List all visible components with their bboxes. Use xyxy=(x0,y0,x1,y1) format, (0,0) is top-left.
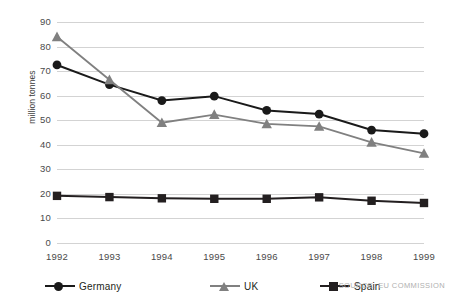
data-point-marker xyxy=(53,61,62,70)
legend-swatch-circle-icon xyxy=(45,280,75,292)
y-axis-tick-label: 90 xyxy=(25,16,51,27)
chart-container: million tonnes 0102030405060708090 19921… xyxy=(0,0,451,307)
data-point-marker xyxy=(263,195,271,203)
x-axis-tick-label: 1995 xyxy=(188,251,240,262)
x-axis-tick-label: 1996 xyxy=(241,251,293,262)
y-axis-tick-label: 10 xyxy=(25,212,51,223)
series-line xyxy=(57,196,424,203)
legend-swatch-triangle-icon xyxy=(210,280,240,292)
y-axis-tick-label: 20 xyxy=(25,188,51,199)
gridline xyxy=(57,145,424,146)
data-point-marker xyxy=(157,117,167,127)
legend-label: Germany xyxy=(79,281,122,292)
data-point-marker xyxy=(104,75,114,85)
data-point-marker xyxy=(420,199,428,207)
data-point-marker xyxy=(262,106,271,115)
y-axis-tick-label: 50 xyxy=(25,114,51,125)
gridline xyxy=(57,71,424,72)
data-point-marker xyxy=(53,192,61,200)
gridline xyxy=(57,22,424,23)
gridline xyxy=(57,194,424,195)
legend-label: UK xyxy=(244,281,258,292)
x-axis-tick-label: 1994 xyxy=(136,251,188,262)
data-point-marker xyxy=(367,197,375,205)
series-line xyxy=(57,65,424,134)
gridline xyxy=(57,243,424,244)
y-axis-tick-label: 30 xyxy=(25,163,51,174)
data-point-marker xyxy=(209,109,219,119)
y-axis-tick-label: 60 xyxy=(25,90,51,101)
data-point-marker xyxy=(157,96,166,105)
y-axis-tick-label: 80 xyxy=(25,41,51,52)
data-point-marker xyxy=(210,195,218,203)
gridline xyxy=(57,218,424,219)
data-point-marker xyxy=(158,194,166,202)
x-axis-tick-label: 1992 xyxy=(31,251,83,262)
gridline xyxy=(57,47,424,48)
series-uk xyxy=(52,32,429,158)
y-axis-tick-label: 0 xyxy=(25,237,51,248)
data-point-marker xyxy=(315,110,324,119)
x-axis-tick-label: 1993 xyxy=(83,251,135,262)
gridline xyxy=(57,120,424,121)
legend-item-uk[interactable]: UK xyxy=(210,278,258,294)
series-germany xyxy=(53,61,429,139)
data-point-marker xyxy=(314,121,324,131)
data-point-marker xyxy=(52,32,62,42)
y-axis-tick-label: 70 xyxy=(25,65,51,76)
data-point-marker xyxy=(419,148,429,158)
x-axis-tick-label: 1999 xyxy=(398,251,450,262)
x-axis-tick-label: 1998 xyxy=(346,251,398,262)
data-point-marker xyxy=(367,126,376,135)
x-axis-tick-label: 1997 xyxy=(293,251,345,262)
data-point-marker xyxy=(105,80,114,89)
data-point-marker xyxy=(420,129,429,138)
y-axis-tick-label: 40 xyxy=(25,139,51,150)
source-note: SOURCE: EU COMMISSION xyxy=(339,281,445,290)
gridline xyxy=(57,96,424,97)
legend-item-germany[interactable]: Germany xyxy=(45,278,122,294)
gridline xyxy=(57,169,424,170)
